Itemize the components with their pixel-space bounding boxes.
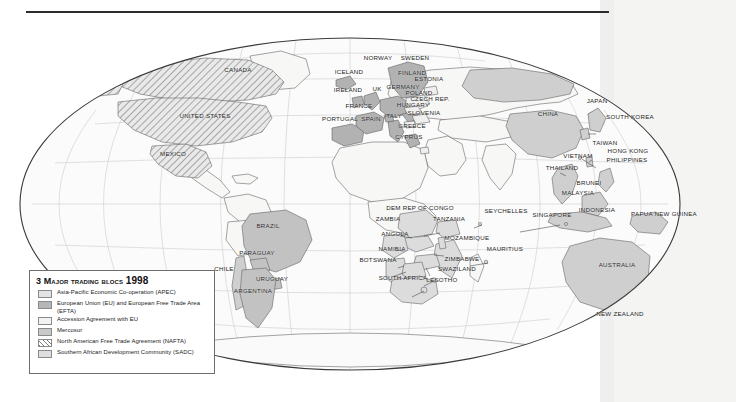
map-label-south-korea: SOUTH KOREA (606, 113, 654, 120)
map-label-brazil: BRAZIL (256, 222, 279, 229)
map-label-south-africa: SOUTH AFRICA (379, 274, 428, 281)
legend-label-apec: Asia-Pacific Economic Co-operation (APEC… (57, 289, 176, 297)
map-label-philippines: PHILIPPINES (607, 156, 648, 163)
map-label-cyprus: CYPRUS (395, 133, 422, 140)
legend-swatch-accession (38, 317, 52, 326)
map-label-portugal: PORTUGAL (322, 115, 358, 122)
map-label-mexico: MEXICO (160, 150, 186, 157)
map-label-zimbabwe: ZIMBABWE (444, 255, 479, 262)
map-label-spain: SPAIN (361, 115, 380, 122)
map-label-new-zealand: NEW ZEALAND (596, 310, 643, 317)
map-label-papua-new-guinea: PAPUA NEW GUINEA (631, 210, 697, 217)
legend-label-eu-efta: European Union (EU) and European Free Tr… (57, 300, 207, 315)
legend-swatch-nafta (38, 339, 52, 348)
map-label-estonia: ESTONIA (415, 75, 444, 82)
map-label-canada: CANADA (224, 66, 251, 73)
map-label-thailand: THAILAND (546, 164, 579, 171)
map-label-united-states: UNITED STATES (179, 112, 230, 119)
map-label-lesotho: LESOTHO (426, 276, 457, 283)
legend-label-mercosur: Mercosur (57, 327, 82, 335)
legend-item-nafta[interactable]: North American Free Trade Agreement (NAF… (35, 338, 209, 348)
page-root: CANADAUNITED STATESMEXICOBRAZILPARAGUAYC… (0, 0, 736, 402)
legend-swatch-sadc (38, 350, 52, 359)
map-label-vietnam: VIETNAM (563, 152, 592, 159)
map-label-iceland: ICELAND (335, 68, 364, 75)
legend-item-apec[interactable]: Asia-Pacific Economic Co-operation (APEC… (35, 289, 209, 299)
map-label-indonesia: INDONESIA (579, 206, 615, 213)
map-label-uruguay: URUGUAY (256, 275, 288, 282)
map-label-mozambique: MOZAMBIQUE (445, 234, 490, 241)
map-label-seychelles: SEYCHELLES (484, 207, 527, 214)
map-label-greece: GREECE (398, 122, 426, 129)
legend-panel: 3 Major trading blocs 1998 Asia-Pacific … (29, 270, 215, 374)
map-label-china: CHINA (538, 110, 559, 117)
map-label-slovenia: SLOVENIA (408, 109, 441, 116)
legend-title-main: Major trading blocs (44, 276, 126, 286)
map-label-angola: ANGOLA (381, 230, 408, 237)
legend-swatch-mercosur (38, 328, 52, 337)
legend-label-accession: Accession Agreement with EU (57, 316, 138, 324)
map-label-argentina: ARGENTINA (234, 287, 272, 294)
map-label-france: FRANCE (346, 102, 373, 109)
map-label-dem-rep-congo: DEM REP OF CONGO (386, 204, 454, 211)
map-label-hungary: HUNGARY (397, 101, 430, 108)
map-label-botswana: BOTSWANA (359, 256, 396, 263)
legend-title-prefix: 3 (36, 276, 44, 286)
legend-item-eu-efta[interactable]: European Union (EU) and European Free Tr… (35, 300, 209, 315)
legend-label-nafta: North American Free Trade Agreement (NAF… (57, 338, 186, 346)
map-label-malaysia: MALAYSIA (562, 189, 595, 196)
legend-label-sadc: Southern African Development Community (… (57, 349, 194, 357)
map-label-japan: JAPAN (587, 97, 608, 104)
map-label-sweden: SWEDEN (401, 54, 430, 61)
map-label-chile: CHILE (214, 265, 233, 272)
map-label-namibia: NAMIBIA (378, 245, 405, 252)
map-label-norway: NORWAY (364, 54, 393, 61)
map-label-hong-kong: HONG KONG (608, 147, 649, 154)
map-label-mauritius: MAURITIUS (487, 245, 523, 252)
map-label-ireland: IRELAND (334, 86, 363, 93)
map-label-tanzania: TANZANIA (433, 215, 465, 222)
map-label-singapore: SINGAPORE (532, 211, 571, 218)
legend-item-mercosur[interactable]: Mercosur (35, 327, 209, 337)
legend-title-year: 1998 (126, 275, 149, 286)
map-label-paraguay: PARAGUAY (239, 249, 274, 256)
map-label-australia: AUSTRALIA (599, 261, 636, 268)
header-rule (26, 11, 609, 13)
legend-swatch-eu-efta (38, 301, 52, 310)
map-label-uk: UK (372, 85, 381, 92)
map-label-brunei: BRUNEI (577, 179, 602, 186)
map-label-swaziland: SWAZILAND (438, 265, 476, 272)
legend-title: 3 Major trading blocs 1998 (36, 275, 209, 286)
map-label-zambia: ZAMBIA (376, 215, 401, 222)
legend-swatch-apec (38, 290, 52, 299)
legend-item-accession[interactable]: Accession Agreement with EU (35, 316, 209, 326)
legend-item-sadc[interactable]: Southern African Development Community (… (35, 349, 209, 359)
map-label-italy: ITALY (384, 112, 402, 119)
map-label-taiwan: TAIWAN (593, 139, 618, 146)
